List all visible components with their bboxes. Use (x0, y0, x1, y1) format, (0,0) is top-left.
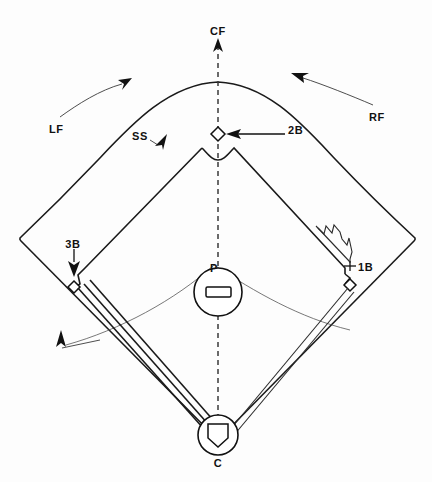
label-shortstop: SS (132, 130, 148, 142)
label-first-base: 1B (358, 261, 373, 273)
infield-arc-callout-arrow (56, 330, 100, 348)
label-right-field: RF (369, 111, 385, 123)
left-foul-boundary (20, 240, 218, 440)
right-field-fence-hatching (316, 225, 352, 263)
pitchers-mound (194, 268, 242, 316)
field-svg: CF LF RF SS 2B 3B 1B P C (0, 0, 432, 482)
label-center-field: CF (210, 25, 226, 37)
third-base-leader-arrow (68, 249, 80, 277)
lf-arrow-icon (60, 78, 132, 117)
home-plate-area (198, 415, 238, 455)
label-catcher: C (214, 457, 223, 469)
rf-arrow-icon (291, 73, 373, 105)
first-base-marker (344, 279, 356, 291)
right-foul-boundary (218, 240, 415, 440)
second-base-leader-arrow (226, 129, 285, 139)
label-third-base: 3B (65, 238, 80, 250)
label-left-field: LF (49, 123, 64, 135)
first-base-foul-line-lanes (224, 288, 354, 441)
second-base-marker (211, 127, 225, 141)
label-second-base: 2B (288, 124, 303, 136)
ss-arrow-icon (150, 134, 167, 150)
label-pitcher: P (210, 262, 218, 274)
baseball-field-diagram: CF LF RF SS 2B 3B 1B P C (0, 0, 432, 482)
pitching-rubber (206, 287, 231, 297)
